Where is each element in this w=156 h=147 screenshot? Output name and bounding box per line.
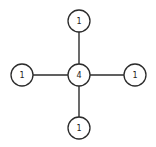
node-left-label: 1 <box>19 71 24 80</box>
node-right-label: 1 <box>132 71 137 80</box>
star-graph-diagram: 1 1 1 1 4 <box>0 0 156 147</box>
node-center: 4 <box>68 64 90 86</box>
node-top: 1 <box>68 10 90 32</box>
node-top-label: 1 <box>76 17 81 26</box>
node-center-label: 4 <box>76 71 81 80</box>
node-bottom-label: 1 <box>76 124 81 133</box>
node-left: 1 <box>11 64 33 86</box>
node-right: 1 <box>124 64 146 86</box>
node-bottom: 1 <box>68 117 90 139</box>
